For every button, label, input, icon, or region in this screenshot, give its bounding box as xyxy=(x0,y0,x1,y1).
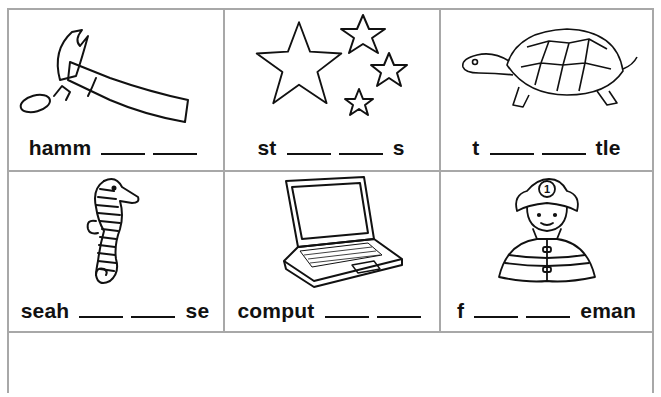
svg-text:1: 1 xyxy=(543,183,549,195)
letter-blank[interactable] xyxy=(377,302,421,318)
word-suffix: tle xyxy=(596,136,621,159)
cell-fireman: 1 f eman xyxy=(439,170,654,333)
star-icon xyxy=(251,13,411,128)
letter-blank[interactable] xyxy=(79,302,123,318)
letter-blank[interactable] xyxy=(542,139,586,155)
fireman-picture: 1 xyxy=(439,176,654,288)
word-suffix: se xyxy=(186,299,210,322)
hammer-picture xyxy=(7,14,223,126)
letter-blank[interactable] xyxy=(325,302,369,318)
word-prefix: seah xyxy=(21,299,70,322)
word-prefix: hamm xyxy=(29,136,92,159)
letter-blank[interactable] xyxy=(526,302,570,318)
cell-stars: st s xyxy=(223,8,439,170)
letter-blank[interactable] xyxy=(131,302,175,318)
turtle-icon xyxy=(457,25,637,115)
word-hamm: hamm xyxy=(7,136,223,160)
word-prefix: f xyxy=(457,299,464,322)
laptop-icon xyxy=(256,175,406,290)
word-turtle: t tle xyxy=(439,136,654,160)
letter-blank[interactable] xyxy=(153,139,197,155)
seahorse-picture xyxy=(7,176,223,288)
word-prefix: st xyxy=(257,136,276,159)
seahorse-icon xyxy=(80,175,150,290)
cell-hammer: hamm xyxy=(7,8,223,170)
letter-blank[interactable] xyxy=(474,302,518,318)
word-suffix: s xyxy=(393,136,405,159)
letter-blank[interactable] xyxy=(101,139,145,155)
cell-computer: comput xyxy=(223,170,439,333)
letter-blank[interactable] xyxy=(287,139,331,155)
word-suffix: eman xyxy=(580,299,636,322)
word-stars: st s xyxy=(223,136,439,160)
cell-turtle: t tle xyxy=(439,8,654,170)
computer-picture xyxy=(223,176,439,288)
word-fireman: f eman xyxy=(439,299,654,323)
cell-seahorse: seah se xyxy=(7,170,223,333)
letter-blank[interactable] xyxy=(339,139,383,155)
turtle-picture xyxy=(439,14,654,126)
word-seahorse: seah se xyxy=(7,299,223,323)
fireman-icon: 1 xyxy=(487,177,607,287)
hammer-icon xyxy=(40,20,190,120)
word-prefix: t xyxy=(472,136,479,159)
word-prefix: comput xyxy=(237,299,314,322)
cut-off-footer-box xyxy=(7,333,654,393)
stars-picture xyxy=(223,14,439,126)
word-computer: comput xyxy=(223,299,439,323)
letter-blank[interactable] xyxy=(490,139,534,155)
worksheet: hamm st s xyxy=(7,8,654,397)
